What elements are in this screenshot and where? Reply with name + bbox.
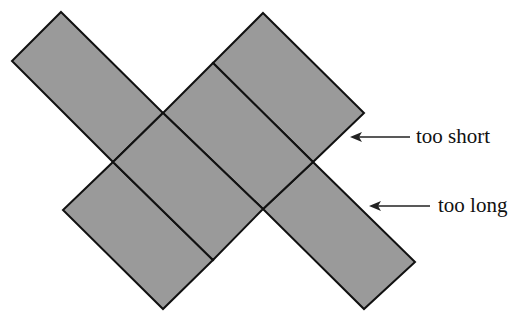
label-too-long: too long <box>438 193 508 217</box>
annotation-too-long: too long <box>369 193 508 217</box>
x-tile-diagram: too short too long <box>0 0 520 321</box>
annotation-too-short: too short <box>350 124 490 148</box>
label-too-short: too short <box>416 124 490 148</box>
